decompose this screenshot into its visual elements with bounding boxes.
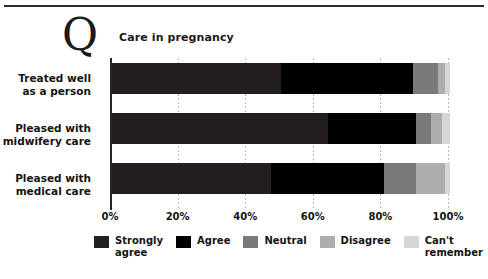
bar-segment: [442, 113, 450, 144]
x-axis-tick-label: 0%: [85, 211, 135, 222]
legend-label: Disagree: [341, 235, 391, 247]
bar-segment: [112, 113, 328, 144]
bar-segment: [384, 163, 416, 194]
category-label-line: Treated well: [0, 72, 91, 85]
legend-item: Can't remember: [404, 235, 483, 259]
legend-label: Strongly agree: [115, 235, 163, 259]
category-label: Pleased withmidwifery care: [0, 122, 91, 148]
x-axis-tick-label: 20%: [153, 211, 203, 222]
legend-swatch: [94, 236, 109, 248]
legend-swatch: [404, 236, 419, 248]
bar-segment: [445, 163, 450, 194]
legend-item: Neutral: [243, 235, 306, 248]
legend-swatch: [320, 236, 335, 248]
category-label-line: midwifery care: [0, 135, 91, 148]
x-axis-tick-label: 100%: [423, 211, 473, 222]
legend-item: Strongly agree: [94, 235, 163, 259]
legend-label: Can't remember: [425, 235, 483, 259]
chart-legend: Strongly agreeAgreeNeutralDisagreeCan't …: [94, 235, 488, 259]
stacked-bar: [112, 163, 450, 194]
bar-segment: [445, 63, 450, 94]
bar-segment: [271, 163, 384, 194]
x-axis-tick-label: 40%: [220, 211, 270, 222]
stacked-bar: [112, 113, 450, 144]
bar-segment: [416, 113, 431, 144]
category-label: Pleased withmedical care: [0, 172, 91, 198]
bar-segment: [112, 63, 281, 94]
bar-segment: [112, 163, 271, 194]
bar-segment: [413, 63, 438, 94]
legend-swatch: [176, 236, 191, 248]
category-label: Treated wellas a person: [0, 72, 91, 98]
bar-segment: [416, 163, 445, 194]
category-label-line: medical care: [0, 185, 91, 198]
category-label-line: Pleased with: [0, 122, 91, 135]
bar-segment: [431, 113, 441, 144]
bar-segment: [281, 63, 413, 94]
x-axis-tick-label: 60%: [288, 211, 338, 222]
stacked-bar: [112, 63, 450, 94]
legend-item: Agree: [176, 235, 230, 248]
legend-label: Neutral: [264, 235, 306, 247]
bar-segment: [328, 113, 416, 144]
category-label-line: as a person: [0, 85, 91, 98]
legend-label: Agree: [197, 235, 230, 247]
category-label-line: Pleased with: [0, 172, 91, 185]
legend-item: Disagree: [320, 235, 391, 248]
bar-segment: [438, 63, 445, 94]
x-axis-tick-label: 80%: [355, 211, 405, 222]
legend-swatch: [243, 236, 258, 248]
